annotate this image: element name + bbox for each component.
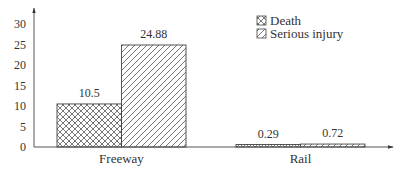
category-labels: FreewayRail: [99, 151, 312, 166]
value-label: 10.5: [79, 86, 100, 100]
y-tick-labels: 051015202530: [14, 17, 26, 154]
bar-serious-injury-rail: [301, 144, 366, 147]
y-tick-label: 20: [14, 58, 26, 72]
category-label: Freeway: [99, 151, 144, 166]
y-tick-label: 15: [14, 79, 26, 93]
bar-death-rail: [236, 145, 301, 148]
y-tick-label: 5: [20, 120, 26, 134]
legend: Death Serious injury: [257, 13, 344, 41]
bar-serious-injury-freeway: [122, 45, 187, 147]
legend-swatch-death: [257, 16, 266, 25]
y-tick-label: 10: [14, 99, 26, 113]
y-tick-label: 25: [14, 38, 26, 52]
value-label: 0.29: [258, 127, 279, 141]
y-tick-label: 0: [20, 140, 26, 154]
legend-swatch-serious-injury: [257, 29, 266, 38]
value-label: 0.72: [322, 126, 343, 140]
bar-death-freeway: [57, 104, 122, 147]
bar-chart: 051015202530 10.524.880.290.72 FreewayRa…: [0, 0, 406, 170]
category-label: Rail: [290, 151, 312, 166]
bars: [57, 45, 365, 147]
value-label: 24.88: [140, 27, 167, 41]
legend-label-serious-injury: Serious injury: [270, 26, 344, 41]
y-tick-label: 30: [14, 17, 26, 31]
